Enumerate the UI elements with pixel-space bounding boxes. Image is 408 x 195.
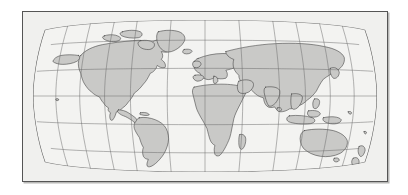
world-map-canvas <box>23 12 387 181</box>
region-island-dot-2 <box>348 111 351 114</box>
region-british-isles <box>193 61 201 68</box>
page-root <box>0 0 408 195</box>
region-island-dot-1 <box>56 99 59 101</box>
region-borneo <box>307 110 320 117</box>
world-map-figure <box>22 11 388 182</box>
region-iceland <box>183 49 192 54</box>
region-tasmania <box>334 158 340 162</box>
region-island-dot-3 <box>364 131 366 134</box>
